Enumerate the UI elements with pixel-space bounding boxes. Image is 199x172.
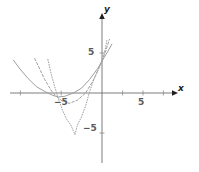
x-axis-label: x	[178, 84, 184, 93]
y-axis-tick-label-5: 5	[88, 48, 94, 57]
y-axis-label: y	[104, 5, 110, 14]
narrow-parabola-curve	[48, 40, 107, 134]
coordinate-plane	[0, 0, 199, 172]
parabolas-figure: −5 5 5 −5 x y	[0, 0, 199, 172]
x-axis-tick-label-5: 5	[138, 98, 144, 107]
axes-group	[10, 13, 178, 163]
x-axis-tick-label-negative-5: −5	[54, 98, 68, 107]
parabola-curves-group	[13, 39, 111, 134]
y-axis-tick-label-negative-5: −5	[83, 124, 97, 133]
wide-parabola-curve	[13, 44, 111, 97]
